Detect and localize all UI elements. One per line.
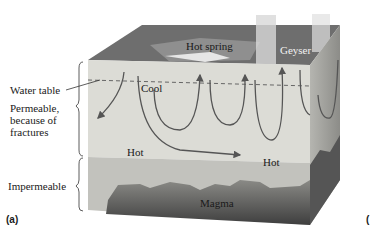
- next-panel-label: (: [366, 214, 369, 226]
- panel-label: (a): [6, 214, 18, 226]
- permeable-label-3: fractures: [10, 126, 48, 138]
- hot-label-left: Hot: [127, 146, 144, 158]
- permeable-label-2: because of: [10, 114, 57, 126]
- water-table-label: Water table: [10, 84, 60, 96]
- impermeable-label: Impermeable: [8, 180, 66, 192]
- cool-label: Cool: [141, 82, 162, 94]
- permeable-label-1: Permeable,: [10, 102, 59, 114]
- permeable-layer: [88, 60, 310, 163]
- geyser-label: Geyser: [280, 44, 311, 56]
- hot-label-right: Hot: [263, 156, 280, 168]
- magma-label: Magma: [200, 197, 234, 209]
- hot-spring-label: Hot spring: [186, 40, 233, 52]
